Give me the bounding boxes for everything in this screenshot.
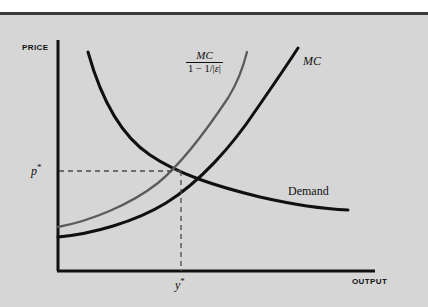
- equilibrium-output-label: y*: [175, 277, 185, 291]
- mc-curve: [58, 48, 298, 237]
- markup-formula-label: MC 1 − 1/|ε|: [186, 50, 223, 75]
- equilibrium-output-asterisk: *: [180, 276, 185, 286]
- equilibrium-price-label: p*: [31, 163, 42, 177]
- equilibrium-price-asterisk: *: [37, 162, 42, 172]
- demand-curve-label: Demand: [288, 185, 329, 197]
- marginal-cost-markup-curve: [58, 52, 247, 227]
- formula-denominator: 1 − 1/|ε|: [186, 63, 223, 75]
- economics-plot: [0, 0, 428, 307]
- x-axis-title: OUTPUT: [352, 278, 387, 286]
- mc-curve-label: MC: [303, 55, 321, 67]
- formula-denominator-suffix: |: [219, 63, 221, 74]
- figure-page: PRICE OUTPUT MC Demand MC 1 − 1/|ε| p* y…: [0, 0, 428, 307]
- formula-denominator-prefix: 1 − 1/|: [188, 63, 215, 74]
- y-axis-title: PRICE: [22, 44, 48, 52]
- formula-numerator: MC: [186, 50, 223, 62]
